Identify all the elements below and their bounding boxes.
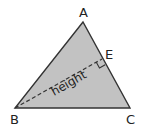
vertex-label-c: C [126,112,135,127]
vertex-label-a: A [79,5,88,20]
triangle-abc [15,22,130,108]
foot-label-e: E [105,47,113,62]
triangle-height-diagram: A B C E height [0,0,142,132]
diagram-svg: A B C E height [0,0,142,132]
vertex-label-b: B [10,112,19,127]
